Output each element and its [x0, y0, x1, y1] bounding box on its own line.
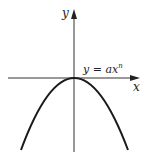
y-axis-label: y — [61, 6, 69, 20]
y-axis-arrow-icon — [71, 9, 77, 19]
equation-label: y = axn — [82, 62, 123, 76]
x-axis-label: x — [133, 80, 140, 94]
graph: y x y = axn — [0, 0, 148, 154]
